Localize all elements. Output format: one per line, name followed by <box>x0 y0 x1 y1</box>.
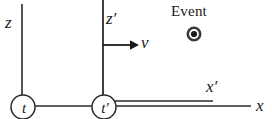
event-label: Event <box>171 4 207 19</box>
event-marker-dot <box>191 31 197 37</box>
velocity-arrow-head <box>130 40 139 50</box>
velocity-label: v <box>141 34 149 51</box>
x-prime-axis-label: x′ <box>206 78 217 95</box>
clock-t-prime-label: t′ <box>95 100 115 117</box>
z-axis-label: z <box>5 14 12 31</box>
x-axis-label: x <box>256 97 264 114</box>
clock-t-label: t <box>16 100 32 117</box>
reference-frame-diagram: z z′ v x′ x Event t t′ <box>0 0 272 119</box>
z-prime-axis-label: z′ <box>106 10 116 27</box>
diagram-canvas <box>0 0 272 119</box>
